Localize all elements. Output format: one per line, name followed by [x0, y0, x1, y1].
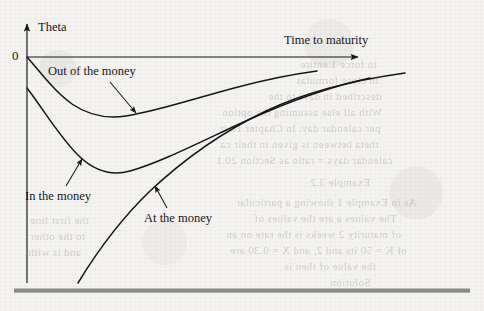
curve-in-the-money [27, 78, 370, 173]
x-axis-label: Time to maturity [284, 33, 368, 48]
figure-page: in force 1 entirein close formulasdescri… [0, 0, 484, 311]
curve-label-in-the-money: In the money [25, 189, 91, 204]
curve-label-out-of-the-money: Out of the money [48, 64, 136, 79]
pointer-line-out-of-the-money [110, 82, 136, 113]
y-axis-label: Theta [38, 20, 66, 35]
pointer-line-in-the-money [66, 159, 82, 186]
theta-vs-time-to-maturity-chart [0, 0, 484, 311]
pointer-line-at-the-money [155, 186, 167, 208]
curve-at-the-money [78, 73, 405, 283]
page-footer-rule [14, 289, 470, 293]
curve-label-at-the-money: At the money [144, 211, 212, 226]
axis-origin-label: 0 [12, 48, 19, 64]
